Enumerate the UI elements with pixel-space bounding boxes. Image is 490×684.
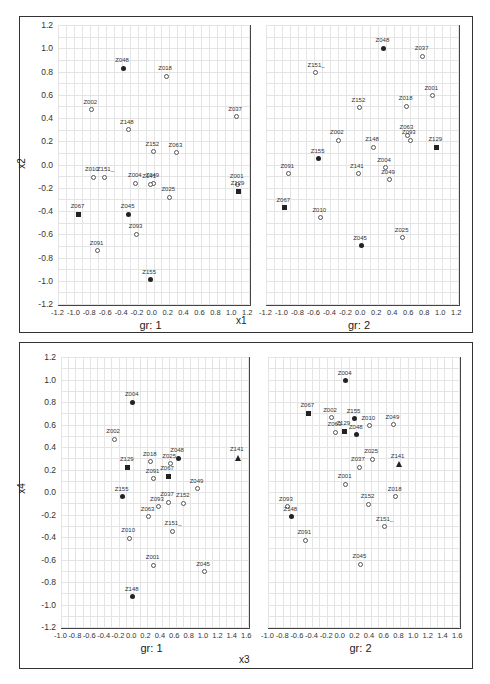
data-point-z091 bbox=[303, 538, 308, 543]
data-point-label: Z018 bbox=[399, 95, 413, 101]
x-tick-label: 1.0 bbox=[408, 631, 418, 640]
data-point-label: Z025 bbox=[162, 453, 176, 459]
data-point-label: Z049 bbox=[381, 169, 395, 175]
gridline bbox=[61, 492, 248, 493]
data-point-z093 bbox=[156, 504, 161, 509]
data-point-z148 bbox=[126, 127, 131, 132]
gridline bbox=[266, 258, 458, 259]
data-point-label: Z093 bbox=[150, 496, 164, 502]
gridline bbox=[268, 616, 459, 617]
gridline bbox=[268, 571, 459, 572]
y-axis-title: x4 bbox=[16, 483, 27, 494]
gridline bbox=[58, 25, 249, 26]
data-point-label: Z002 bbox=[323, 407, 337, 413]
gridline bbox=[61, 481, 248, 482]
x-tick-label: -0.8 bbox=[276, 631, 289, 640]
data-point-z152 bbox=[366, 502, 371, 507]
x-tick-label: -0.4 bbox=[115, 308, 128, 317]
data-point-label: Z010 bbox=[361, 415, 375, 421]
gridline bbox=[61, 548, 248, 549]
x-tick-label: 0.8 bbox=[210, 308, 220, 317]
gridline bbox=[266, 176, 458, 177]
gridline bbox=[268, 627, 459, 628]
gridline bbox=[61, 537, 248, 538]
data-point-label: Z091 bbox=[146, 468, 160, 474]
gridline bbox=[266, 211, 458, 212]
gridline bbox=[266, 118, 458, 119]
data-point-z067 bbox=[166, 474, 171, 479]
data-point-label: Z155 bbox=[142, 269, 156, 275]
data-point-z093 bbox=[408, 138, 413, 143]
x-tick-label: 1.0 bbox=[435, 308, 445, 317]
gridline bbox=[61, 380, 248, 381]
y-tick-label: -0.2 bbox=[25, 183, 53, 193]
gridline bbox=[58, 106, 249, 107]
data-point-label: Z155 bbox=[115, 486, 129, 492]
y-tick-label: -0.2 bbox=[28, 510, 56, 520]
data-point-z063 bbox=[333, 430, 338, 435]
data-point-label: Z129 bbox=[120, 456, 134, 462]
data-point-label: Z148 bbox=[284, 506, 298, 512]
data-point-z141 bbox=[396, 461, 402, 467]
data-point-label: Z091 bbox=[90, 240, 104, 246]
data-point-z129 bbox=[236, 189, 241, 194]
gridline bbox=[61, 616, 248, 617]
gridline bbox=[458, 25, 459, 304]
y-tick-label: -1.0 bbox=[25, 276, 53, 286]
gridline bbox=[58, 246, 249, 247]
x-tick-label: -1.0 bbox=[54, 631, 67, 640]
x-tick-label: 1.2 bbox=[423, 631, 433, 640]
gridline bbox=[266, 25, 458, 26]
gridline bbox=[266, 130, 458, 131]
data-point-z010 bbox=[127, 536, 132, 541]
x-tick-label: 0.0 bbox=[147, 308, 157, 317]
gridline bbox=[58, 292, 249, 293]
data-point-label: Z048 bbox=[376, 37, 390, 43]
gridline bbox=[61, 605, 248, 606]
data-point-z151 bbox=[382, 524, 387, 529]
x-tick-label: 0.8 bbox=[393, 631, 403, 640]
data-point-label: Z045 bbox=[121, 203, 135, 209]
x-tick-label: 0.2 bbox=[349, 631, 359, 640]
data-point-label: Z004 bbox=[338, 370, 352, 376]
data-point-label: Z001 bbox=[230, 173, 244, 179]
data-point-label: Z018 bbox=[143, 451, 157, 457]
x-tick-label: -0.6 bbox=[290, 631, 303, 640]
gridline bbox=[61, 436, 248, 437]
data-point-label: Z093 bbox=[279, 496, 293, 502]
y-tick-label: 0.4 bbox=[28, 442, 56, 452]
x-tick-label: 1.2 bbox=[451, 308, 461, 317]
gridline bbox=[268, 470, 459, 471]
gridline bbox=[268, 380, 459, 381]
x-tick-label: -1.0 bbox=[67, 308, 80, 317]
x-axis-title: x3 bbox=[239, 654, 250, 665]
y-tick-label: 1.2 bbox=[25, 20, 53, 30]
gridline bbox=[268, 391, 459, 392]
gridline bbox=[268, 605, 459, 606]
gridline bbox=[266, 153, 458, 154]
x-tick-label: -0.2 bbox=[131, 308, 144, 317]
gridline bbox=[266, 60, 458, 61]
x-tick-label: 0.0 bbox=[126, 631, 136, 640]
x-tick-label: 0.0 bbox=[334, 631, 344, 640]
gridline bbox=[61, 593, 248, 594]
x-tick-label: -0.2 bbox=[339, 308, 352, 317]
data-point-label: Z141 bbox=[230, 446, 244, 452]
gridline bbox=[266, 223, 458, 224]
data-point-label: Z152 bbox=[352, 97, 366, 103]
data-point-z002 bbox=[336, 138, 341, 143]
x-tick-label: -1.0 bbox=[275, 308, 288, 317]
data-point-z048 bbox=[176, 456, 181, 461]
x-tick-label: -1.2 bbox=[259, 308, 272, 317]
gridline bbox=[61, 425, 248, 426]
x-tick-label: 0.4 bbox=[364, 631, 374, 640]
data-point-z048 bbox=[381, 46, 386, 51]
x-tick-label: -0.4 bbox=[323, 308, 336, 317]
gridline bbox=[248, 357, 249, 627]
gridline bbox=[268, 537, 459, 538]
x-tick-label: 1.6 bbox=[241, 631, 251, 640]
x-tick-label: -0.8 bbox=[68, 631, 81, 640]
gridline bbox=[268, 548, 459, 549]
gridline bbox=[58, 95, 249, 96]
data-point-label: Z152 bbox=[176, 492, 190, 498]
